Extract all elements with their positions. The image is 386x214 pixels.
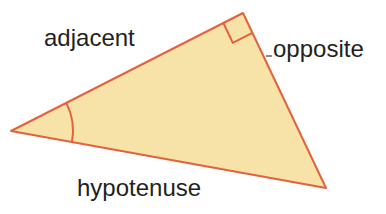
label-opposite: opposite — [273, 37, 364, 61]
label-adjacent: adjacent — [44, 26, 135, 50]
triangle-diagram: adjacent opposite hypotenuse — [0, 0, 386, 214]
label-hypotenuse: hypotenuse — [77, 176, 201, 200]
opposite-tick-icon — [266, 55, 272, 57]
